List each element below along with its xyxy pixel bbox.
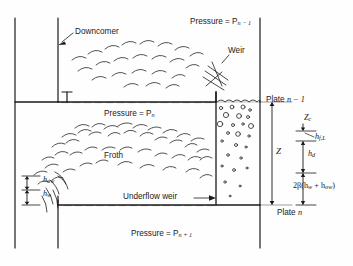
label-Z: Z	[276, 147, 281, 156]
hfL-leader	[305, 133, 314, 137]
label-Z-c: Zc	[304, 114, 311, 123]
schematic-drawing	[0, 0, 353, 266]
label-pressure-below: Pressure = Pn + 1	[131, 230, 192, 239]
how-dimension-arrow	[25, 176, 30, 189]
hd-dimension-arrow	[301, 141, 305, 173]
label-h-ow: how	[43, 176, 54, 185]
hw-dimension-arrow	[25, 190, 30, 204]
label-plate-n: Plate n	[277, 209, 302, 218]
label-h-f-L: hf,L	[315, 133, 326, 142]
Z-dimension-arrow	[270, 102, 275, 205]
downcomer-leader	[58, 33, 73, 45]
label-pressure-middle: Pressure = Pn	[104, 110, 155, 119]
label-froth: Froth	[104, 152, 123, 161]
label-weir: Weir	[228, 47, 245, 56]
weir-hatching	[203, 62, 228, 90]
froth-cloud-upper	[72, 40, 203, 88]
figure-canvas: Pressure = Pn − 1 Pressure = Pn Pressure…	[0, 0, 353, 266]
label-h-w: hw	[43, 190, 51, 199]
label-beta-expression: 2β(hw + how)	[293, 182, 335, 191]
label-pressure-above: Pressure = Pn − 1	[190, 18, 251, 27]
weir-leader	[222, 55, 229, 63]
label-downcomer: Downcomer	[75, 28, 119, 37]
underflow-weir-leader	[194, 195, 216, 201]
label-plate-n-minus-1: Plate n − 1	[266, 96, 305, 105]
label-underflow-weir: Underflow weir	[123, 193, 177, 202]
label-h-d: hd	[308, 150, 315, 159]
Zc-dimension-arrow	[301, 124, 305, 131]
downcomer-bubbles	[217, 105, 253, 197]
